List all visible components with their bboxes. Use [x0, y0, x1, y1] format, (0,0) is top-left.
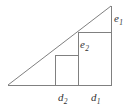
label-e2-subscript: 2 — [85, 44, 89, 53]
label-d2-base: d — [58, 91, 64, 103]
label-d1-base: d — [91, 91, 97, 103]
label-d2: d2 — [58, 92, 67, 103]
label-e1-subscript: 1 — [119, 18, 123, 27]
label-d2-subscript: 2 — [64, 97, 68, 106]
label-d1-subscript: 1 — [97, 97, 101, 106]
geometry-figure: e1 e2 d2 d1 — [0, 0, 135, 110]
label-d1: d1 — [91, 92, 100, 103]
label-e1: e1 — [114, 13, 123, 24]
triangle-hypotenuse — [8, 6, 111, 85]
label-e2: e2 — [80, 39, 89, 50]
